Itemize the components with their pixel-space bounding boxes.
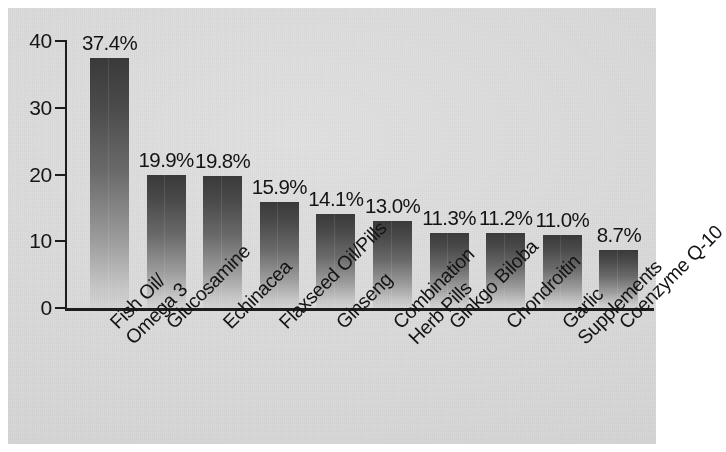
y-axis-tick-label: 20 [14,164,52,185]
y-axis-tick [55,174,65,176]
bar-value-label: 19.9% [139,150,194,171]
y-axis-tick-label: 40 [14,30,52,51]
bar-value-label: 13.0% [365,196,420,217]
bar [90,58,129,308]
chart-plate: 403020100 37.4%19.9%19.8%15.9%14.1%13.0%… [8,8,656,444]
y-axis-tick [55,307,65,309]
y-axis-tick-label: 10 [14,230,52,251]
bar-value-label: 15.9% [252,177,307,198]
bar-value-label: 11.2% [479,208,533,229]
y-axis-tick [55,40,65,42]
bar-value-label: 11.3% [422,208,476,229]
bar-value-label: 14.1% [308,189,363,210]
plot-area: 403020100 37.4%19.9%19.8%15.9%14.1%13.0%… [8,8,656,444]
bar-value-label: 11.0% [535,210,589,231]
y-axis-line [65,40,67,310]
y-axis-tick [55,107,65,109]
y-axis-tick-label: 0 [14,297,52,318]
y-axis-tick-label: 30 [14,97,52,118]
bar-value-label: 19.8% [195,151,250,172]
y-axis-tick [55,240,65,242]
bar-value-label: 37.4% [82,33,137,54]
